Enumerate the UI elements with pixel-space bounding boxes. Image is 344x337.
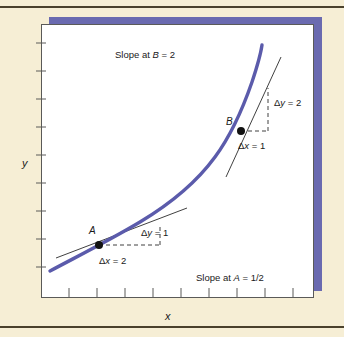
point-a-marker (95, 241, 103, 249)
figure-container: y x A B Slope at B = 2 Slope at A = 1/2 … (0, 0, 344, 337)
y-axis-ticks (36, 43, 46, 267)
slope-at-b-annotation: Slope at B = 2 (115, 49, 175, 60)
x-axis-label: x (165, 310, 171, 322)
delta-y-a-annotation: Δy = 1 (141, 227, 168, 238)
delta-x-a-annotation: Δx = 2 (99, 255, 126, 266)
slope-at-a-annotation: Slope at A = 1/2 (196, 272, 264, 283)
point-a-label: A (89, 225, 96, 236)
y-axis-label: y (22, 157, 28, 169)
delta-y-b-annotation: Δy = 2 (274, 97, 301, 108)
point-b-marker (237, 127, 245, 135)
x-axis-ticks (69, 288, 293, 297)
delta-x-b-annotation: Δx = 1 (238, 140, 265, 151)
point-b-label: B (226, 116, 233, 127)
